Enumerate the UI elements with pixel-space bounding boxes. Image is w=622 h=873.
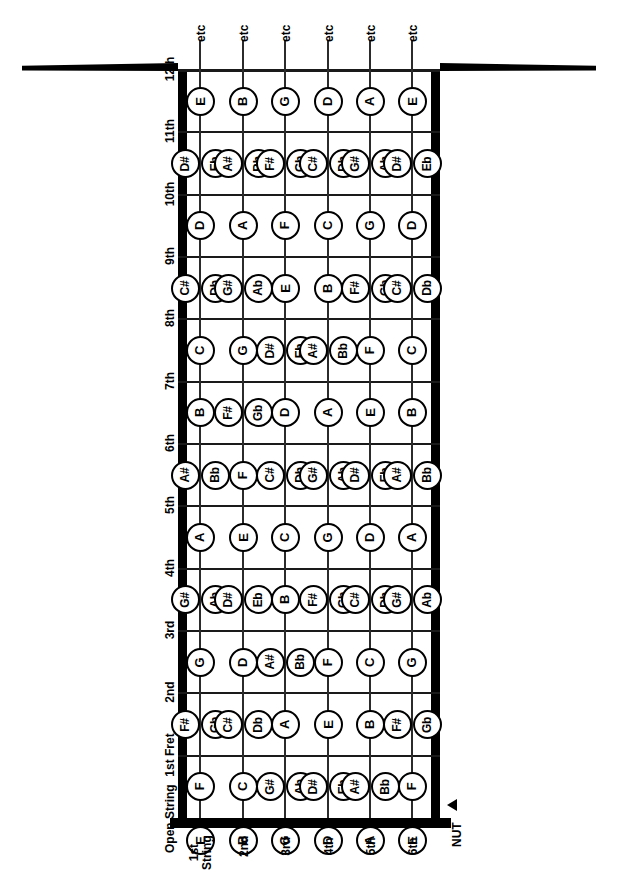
note-marker: G#	[256, 772, 285, 801]
note-marker: F#	[383, 710, 412, 739]
note-marker: Gb	[413, 710, 442, 739]
note-marker: A	[229, 211, 258, 240]
note-marker: C	[186, 336, 215, 365]
note-marker: A	[398, 523, 427, 552]
note-label: A#	[179, 468, 191, 483]
note-marker: G#	[383, 585, 412, 614]
fret-wire-9	[178, 256, 440, 258]
fret-label-6: 6th	[163, 419, 177, 467]
note-marker: Bb	[286, 648, 315, 677]
note-label: E	[279, 284, 292, 292]
note-marker: A	[314, 398, 343, 427]
note-marker: C#	[341, 585, 370, 614]
note-label: C	[237, 782, 250, 791]
note-marker: F#	[341, 274, 370, 303]
note-marker: Bb	[201, 461, 230, 490]
note-marker: D	[186, 211, 215, 240]
note-label: E	[194, 97, 207, 105]
note-marker: C	[398, 336, 427, 365]
note-label: C#	[391, 281, 403, 296]
fret-label-5: 5th	[163, 481, 177, 529]
note-label: Bb	[209, 467, 221, 482]
note-marker: F	[398, 772, 427, 801]
note-marker: Eb	[244, 585, 273, 614]
note-label: F#	[349, 281, 361, 294]
note-marker: B	[314, 274, 343, 303]
note-marker: F	[271, 211, 300, 240]
note-marker: Eb	[413, 149, 442, 178]
nut-arrow-icon	[447, 799, 457, 811]
note-marker: G	[356, 211, 385, 240]
string-label-3: 3rd	[280, 819, 293, 873]
note-marker: C	[229, 772, 258, 801]
note-label: F	[364, 347, 377, 355]
note-marker: B	[229, 87, 258, 116]
note-label: D#	[391, 156, 403, 171]
note-label: C	[364, 658, 377, 667]
string-label-6: 6th	[407, 819, 420, 873]
note-label: Db	[252, 717, 264, 732]
note-label: D#	[264, 343, 276, 358]
note-label: C#	[179, 281, 191, 296]
note-label: F#	[222, 406, 234, 419]
fret-label-11: 11th	[163, 107, 177, 155]
note-marker: D#	[299, 772, 328, 801]
note-label: D	[406, 221, 419, 230]
note-marker: A	[186, 523, 215, 552]
fret-wire-11	[178, 131, 440, 133]
note-label: G	[237, 346, 250, 356]
note-marker: G	[271, 87, 300, 116]
note-label: D	[194, 221, 207, 230]
note-label: F	[194, 783, 207, 791]
note-marker: Ab	[413, 585, 442, 614]
note-marker: B	[398, 398, 427, 427]
etc-label-string-4: etc	[322, 8, 336, 42]
string-label-1: 1st String	[188, 826, 213, 873]
note-marker: Gb	[244, 398, 273, 427]
note-marker: E	[398, 87, 427, 116]
neck-continuation-left	[22, 63, 178, 71]
note-marker: D#	[383, 149, 412, 178]
note-label: F	[406, 783, 419, 791]
note-label: C	[194, 346, 207, 355]
note-label: Bb	[379, 779, 391, 794]
note-marker: E	[229, 523, 258, 552]
note-label: C#	[307, 156, 319, 171]
note-label: F	[237, 471, 250, 479]
note-label: G	[194, 657, 207, 667]
note-marker: F#	[214, 398, 243, 427]
note-marker: C#	[383, 274, 412, 303]
note-label: A#	[264, 655, 276, 670]
note-label: A#	[349, 779, 361, 794]
neck-continuation-right	[440, 63, 596, 71]
note-marker: G	[229, 336, 258, 365]
fret-label-12: 12th	[163, 45, 177, 93]
note-label: E	[364, 409, 377, 417]
note-marker: C#	[214, 710, 243, 739]
note-marker: Bb	[371, 772, 400, 801]
note-marker: E	[356, 398, 385, 427]
note-label: Gb	[252, 405, 264, 421]
note-marker: A#	[299, 336, 328, 365]
note-marker: E	[271, 274, 300, 303]
note-label: C#	[264, 468, 276, 483]
note-marker: B	[271, 585, 300, 614]
note-marker: D	[271, 398, 300, 427]
note-marker: Bb	[329, 336, 358, 365]
note-label: A	[322, 408, 335, 417]
fret-label-8: 8th	[163, 294, 177, 342]
fret-wire-5	[178, 505, 440, 507]
note-marker: C	[356, 648, 385, 677]
note-marker: F#	[299, 585, 328, 614]
note-label: A	[279, 720, 292, 729]
note-label: D	[279, 408, 292, 417]
note-label: C#	[349, 592, 361, 607]
note-label: Bb	[337, 343, 349, 358]
note-label: Eb	[421, 156, 433, 171]
note-label: A#	[222, 156, 234, 171]
note-marker: D	[356, 523, 385, 552]
note-marker: D#	[214, 585, 243, 614]
note-marker: G	[186, 648, 215, 677]
note-label: E	[237, 533, 250, 541]
note-label: A	[364, 97, 377, 106]
